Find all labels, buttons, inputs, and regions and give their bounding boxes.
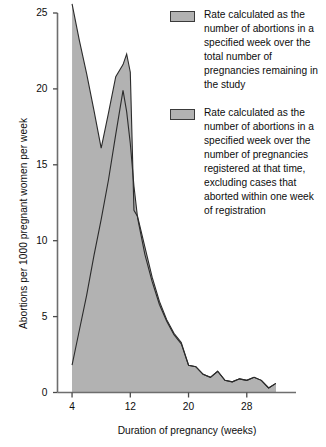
legend-swatch [170,11,195,22]
x-tick-label: 4 [57,401,87,412]
chart-legend: Rate calculated as the number of abortio… [170,8,322,231]
x-tick-label: 28 [232,401,262,412]
legend-entry: Rate calculated as the number of abortio… [170,106,322,219]
y-axis-title: Abortions per 1000 pregnant women per we… [18,0,36,447]
abortion-rate-area-chart: 0510152025 4122028 Abortions per 1000 pr… [0,0,326,447]
legend-entry: Rate calculated as the number of abortio… [170,8,322,93]
x-tick-label: 12 [115,401,145,412]
x-tick-label: 20 [174,401,204,412]
x-axis-title: Duration of pregnancy (weeks) [57,425,317,436]
legend-label: Rate calculated as the number of abortio… [204,106,322,219]
legend-swatch [170,109,195,120]
legend-label: Rate calculated as the number of abortio… [204,8,322,93]
